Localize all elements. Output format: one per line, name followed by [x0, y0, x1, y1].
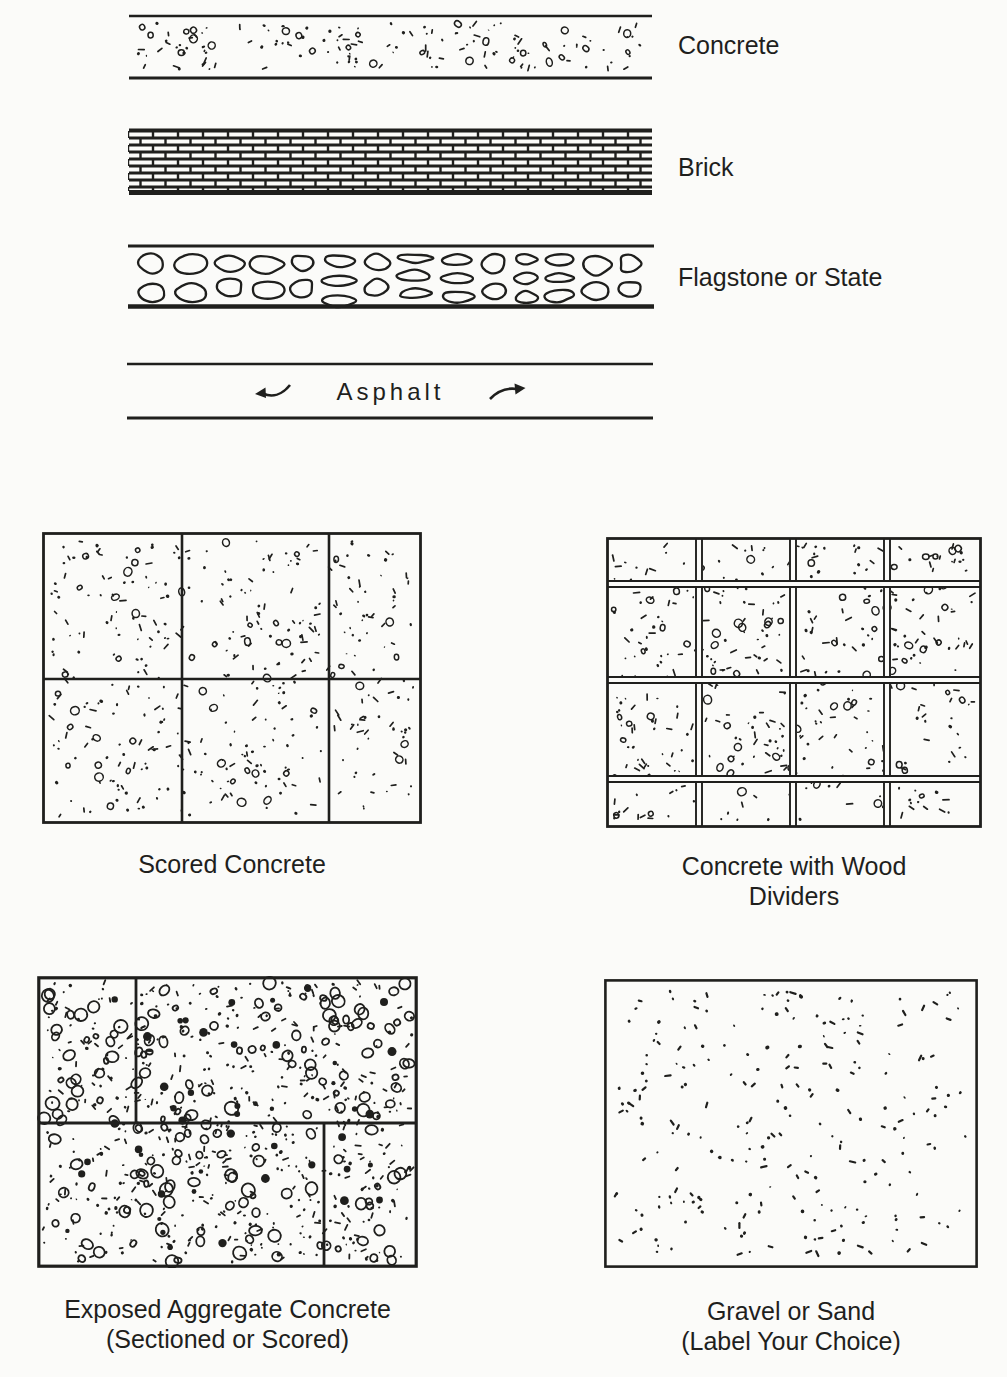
wood-dividers-panel [606, 537, 982, 828]
brick-texture [128, 128, 653, 196]
caption-line: Exposed Aggregate Concrete [37, 1294, 418, 1324]
brick-strip-label: Brick [678, 153, 734, 182]
caption-line: Scored Concrete [42, 849, 422, 879]
scored-concrete-texture [42, 532, 422, 824]
caption-line: (Label Your Choice) [604, 1326, 978, 1356]
wood-dividers-texture [606, 537, 982, 828]
gravel-sand-caption: Gravel or Sand (Label Your Choice) [604, 1296, 978, 1356]
gravel-sand-texture [604, 979, 978, 1268]
brick-strip-swatch [128, 128, 653, 196]
concrete-texture [128, 13, 653, 81]
curved-right-arrow-icon [487, 381, 527, 403]
concrete-strip-swatch [128, 13, 653, 81]
concrete-strip-label: Concrete [678, 31, 779, 60]
curved-left-arrow-icon [254, 381, 294, 403]
wood-dividers-caption: Concrete with Wood Dividers [606, 851, 982, 911]
asphalt-label-row: Asphalt [128, 374, 653, 410]
gravel-sand-panel [604, 979, 978, 1268]
caption-line: Gravel or Sand [604, 1296, 978, 1326]
scored-concrete-panel [42, 532, 422, 824]
asphalt-strip-label: Asphalt [336, 378, 444, 406]
caption-line: Dividers [606, 881, 982, 911]
caption-line: (Sectioned or Scored) [37, 1324, 418, 1354]
paving-symbols-worksheet: Concrete Brick Flagstone or State Asphal… [0, 0, 1007, 1377]
flagstone-texture [127, 243, 655, 311]
scored-concrete-caption: Scored Concrete [42, 849, 422, 879]
flagstone-strip-swatch [127, 243, 655, 311]
flagstone-strip-label: Flagstone or State [678, 263, 882, 292]
caption-line: Concrete with Wood [606, 851, 982, 881]
exposed-aggregate-caption: Exposed Aggregate Concrete (Sectioned or… [37, 1294, 418, 1354]
exposed-aggregate-texture [37, 976, 418, 1268]
exposed-aggregate-panel [37, 976, 418, 1268]
